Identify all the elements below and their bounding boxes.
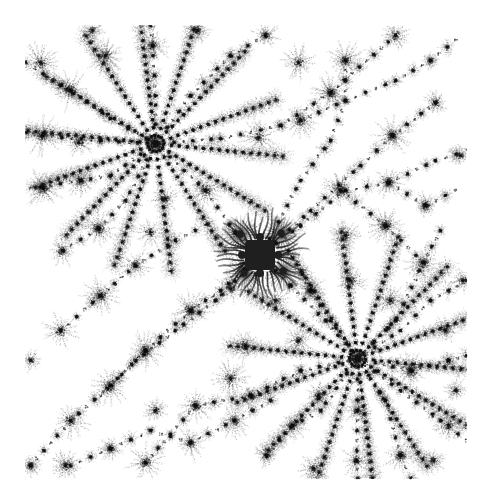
fractal-frame xyxy=(0,0,491,504)
julia-fractal-image xyxy=(0,0,491,504)
